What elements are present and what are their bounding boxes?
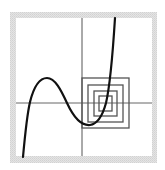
cobweb-diagram: [0, 0, 165, 170]
